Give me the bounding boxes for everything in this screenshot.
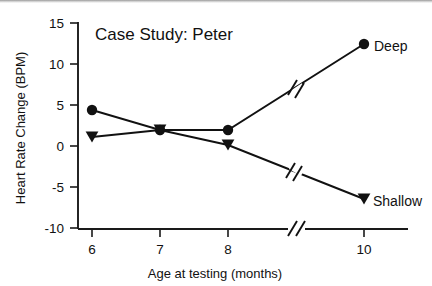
y-tick-label-5: 5 xyxy=(56,98,64,113)
series-label-deep: Deep xyxy=(374,38,408,54)
plot-title: Case Study: Peter xyxy=(95,25,233,44)
chart-canvas: 15 10 5 0 -5 -10 6 7 8 10 Age at testing… xyxy=(0,0,432,286)
data-point-deep-8 xyxy=(223,125,233,135)
x-tick-label-10: 10 xyxy=(356,242,371,257)
data-point-deep-6 xyxy=(87,105,97,115)
series-shallow: Shallow xyxy=(86,125,423,210)
y-tick-marks xyxy=(70,23,78,228)
data-point-shallow-10 xyxy=(358,194,371,205)
figure-panel: 15 10 5 0 -5 -10 6 7 8 10 Age at testing… xyxy=(0,0,432,286)
x-tick-label-7: 7 xyxy=(156,242,164,257)
y-tick-label-10: 10 xyxy=(49,57,64,72)
x-axis-title: Age at testing (months) xyxy=(148,266,282,281)
x-tick-marks xyxy=(92,229,364,237)
y-tick-label-0: 0 xyxy=(56,139,64,154)
series-deep-line xyxy=(92,44,364,130)
series-deep: Deep xyxy=(87,38,408,135)
y-tick-label-minus10: -10 xyxy=(44,221,64,236)
x-tick-label-8: 8 xyxy=(224,242,232,257)
data-point-shallow-8 xyxy=(222,140,235,151)
y-tick-label-15: 15 xyxy=(49,16,64,31)
y-tick-label-minus5: -5 xyxy=(52,180,64,195)
x-tick-label-6: 6 xyxy=(88,242,96,257)
y-axis-title: Heart Rate Change (BPM) xyxy=(13,52,28,204)
data-point-deep-10 xyxy=(359,39,369,49)
series-label-shallow: Shallow xyxy=(373,193,423,209)
x-axis-break-icon xyxy=(288,221,305,236)
